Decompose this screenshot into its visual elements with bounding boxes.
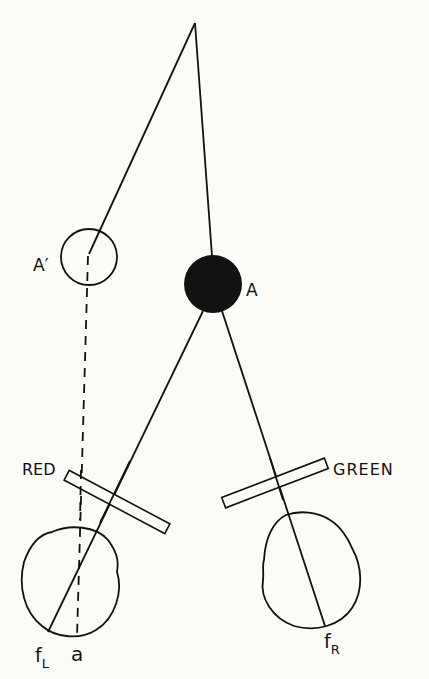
apex-to-perceived-line <box>89 23 195 254</box>
dashed-projection-line <box>77 256 88 637</box>
green-filter-bar <box>222 458 329 508</box>
diagram-canvas: A′ A RED GREEN fL a fR <box>0 0 429 679</box>
left-eye-outline <box>22 527 119 636</box>
apex-to-object-line <box>195 23 212 256</box>
retinal-point-label: a <box>71 642 83 666</box>
left-fovea-label: fL <box>35 644 50 671</box>
diagram-svg: A′ A RED GREEN fL a fR <box>0 0 429 679</box>
green-filter-label: GREEN <box>333 460 394 479</box>
right-fovea-label: fR <box>324 630 340 657</box>
red-filter-label: RED <box>22 460 56 479</box>
right-fovea-label-sub: R <box>331 642 340 657</box>
left-fovea-label-sub: L <box>42 656 50 671</box>
perceived-object-label: A′ <box>33 255 49 275</box>
real-object-circle <box>184 255 242 313</box>
right-eye-outline <box>263 512 361 628</box>
real-object-label: A <box>246 280 258 300</box>
perceived-object-circle <box>61 229 117 285</box>
